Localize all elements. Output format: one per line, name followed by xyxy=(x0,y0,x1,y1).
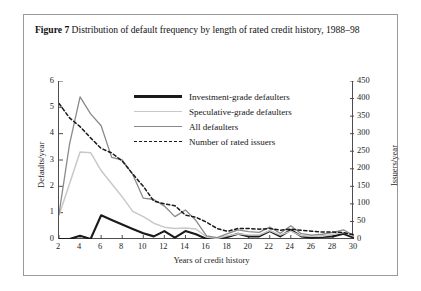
x-axis-tick-label: 24 xyxy=(280,242,300,251)
y-axis-left-tick-label: 5 xyxy=(28,102,54,111)
legend-label: Investment-grade defaulters xyxy=(189,92,290,102)
chart-legend: Investment-grade defaultersSpeculative-g… xyxy=(134,89,339,149)
x-axis-tick-label: 22 xyxy=(259,242,279,251)
y-axis-right-tick-label: 350 xyxy=(357,111,387,120)
x-axis-tick-label: 2 xyxy=(48,242,68,251)
x-axis-tick-label: 8 xyxy=(111,242,131,251)
x-axis-tick-label: 12 xyxy=(153,242,173,251)
y-axis-right-tick-label: 450 xyxy=(357,76,387,85)
y-axis-left-tick-label: 1 xyxy=(28,207,54,216)
legend-item[interactable]: All defaulters xyxy=(134,119,339,134)
legend-label: Speculative-grade defaulters xyxy=(189,107,292,117)
x-axis-tick-label: 6 xyxy=(90,242,110,251)
legend-label: Number of rated issuers xyxy=(189,137,275,147)
y-axis-right-title: Issuers/year xyxy=(389,145,399,186)
legend-swatch-icon xyxy=(134,121,182,133)
y-axis-right-tick-label: 250 xyxy=(357,146,387,155)
figure-label: Figure 7 xyxy=(35,24,69,35)
x-axis-tick-label: 10 xyxy=(132,242,152,251)
x-axis-tick-label: 20 xyxy=(238,242,258,251)
y-axis-right-tick-label: 300 xyxy=(357,128,387,137)
legend-swatch-icon xyxy=(134,136,182,148)
y-axis-right-tick-label: 200 xyxy=(357,163,387,172)
legend-item[interactable]: Speculative-grade defaulters xyxy=(134,104,339,119)
y-axis-left-tick-label: 3 xyxy=(28,155,54,164)
y-axis-right-tick-label: 50 xyxy=(357,216,387,225)
y-axis-right-tick-label: 100 xyxy=(357,198,387,207)
x-axis-tick-label: 14 xyxy=(174,242,194,251)
x-axis-tick-label: 16 xyxy=(196,242,216,251)
y-axis-right-tick-label: 400 xyxy=(357,93,387,102)
series-line xyxy=(59,152,354,238)
y-axis-left-tick-label: 6 xyxy=(28,76,54,85)
x-axis-tick-label: 18 xyxy=(217,242,237,251)
x-axis-title: Years of credit history xyxy=(24,255,399,265)
figure-caption-text: Distribution of default frequency by len… xyxy=(72,24,360,35)
y-axis-left-tick-label: 4 xyxy=(28,128,54,137)
y-axis-left-tick-label: 2 xyxy=(28,181,54,190)
legend-item[interactable]: Investment-grade defaulters xyxy=(134,89,339,104)
x-axis-tick-label: 26 xyxy=(301,242,321,251)
y-axis-right-tick-label: 150 xyxy=(357,181,387,190)
x-axis-tick-label: 4 xyxy=(69,242,89,251)
figure-caption: Figure 7 Distribution of default frequen… xyxy=(35,23,385,36)
legend-swatch-icon xyxy=(134,91,182,103)
x-axis-tick-label: 30 xyxy=(343,242,363,251)
legend-item[interactable]: Number of rated issuers xyxy=(134,134,339,149)
chart-container: Defaults/year Issuers/year Years of cred… xyxy=(24,65,399,277)
figure-box: Figure 7 Distribution of default frequen… xyxy=(23,14,398,276)
legend-swatch-icon xyxy=(134,106,182,118)
x-axis-tick-label: 28 xyxy=(322,242,342,251)
legend-label: All defaulters xyxy=(189,122,238,132)
